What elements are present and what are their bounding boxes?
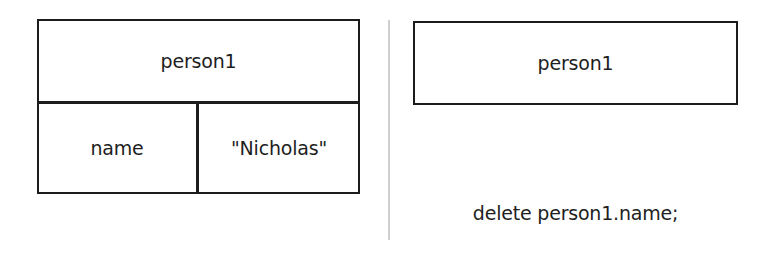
left-panel: person1 name "Nicholas" xyxy=(37,19,360,194)
panel-separator xyxy=(388,20,390,240)
object-label-before: person1 xyxy=(37,19,360,103)
delete-statement: delete person1.name; xyxy=(413,198,738,228)
object-box-after: person1 xyxy=(413,21,738,105)
object-label-after: person1 xyxy=(538,52,614,74)
property-key-cell: name xyxy=(37,103,197,193)
property-value-cell: "Nicholas" xyxy=(198,103,360,193)
